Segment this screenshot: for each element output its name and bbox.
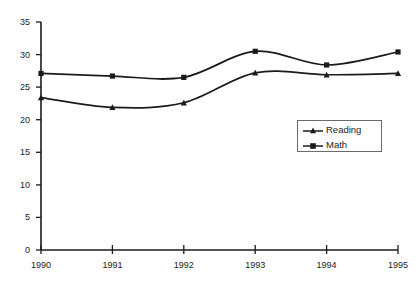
legend-item-reading: Reading [302, 122, 361, 136]
x-tick-label-1995: 1995 [378, 260, 418, 270]
y-tick-label-0: 0 [8, 245, 30, 255]
y-tick-label-15: 15 [8, 147, 30, 157]
legend-item-math: Math [302, 137, 347, 151]
x-tick-label-1991: 1991 [92, 260, 132, 270]
y-tick-label-20: 20 [8, 115, 30, 125]
data-point-math-1990 [38, 71, 43, 76]
y-tick-label-30: 30 [8, 50, 30, 60]
data-point-math-1994 [324, 62, 329, 67]
y-tick-label-35: 35 [8, 17, 30, 27]
data-point-math-1993 [253, 49, 258, 54]
data-point-math-1995 [395, 49, 400, 54]
triangle-marker-icon [302, 123, 324, 135]
x-tick-label-1994: 1994 [307, 260, 347, 270]
square-marker-icon [302, 138, 324, 150]
x-tick-label-1990: 1990 [21, 260, 61, 270]
y-tick-label-10: 10 [8, 180, 30, 190]
chart-legend: Reading Math [297, 120, 382, 152]
x-tick-label-1992: 1992 [164, 260, 204, 270]
x-tick-label-1993: 1993 [235, 260, 275, 270]
data-point-math-1991 [110, 73, 115, 78]
legend-label-math: Math [326, 139, 347, 150]
line-chart: 35 30 25 20 15 10 5 0 1990 1991 1992 199… [0, 0, 419, 283]
series-line-reading [41, 71, 398, 108]
y-tick-label-25: 25 [8, 82, 30, 92]
legend-label-reading: Reading [326, 124, 361, 135]
y-tick-label-5: 5 [8, 212, 30, 222]
data-point-math-1992 [181, 75, 186, 80]
